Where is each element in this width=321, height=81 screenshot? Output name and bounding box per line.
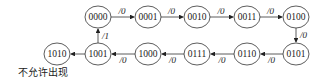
transition-label: /0 — [299, 30, 308, 40]
svg-text:0100: 0100 — [287, 12, 306, 22]
transition-label: /0 — [167, 6, 176, 16]
state-0110: 0110 — [234, 43, 260, 65]
svg-text:0001: 0001 — [139, 12, 158, 22]
state-1010: 1010 — [44, 43, 70, 65]
state-0101: 0101 — [283, 43, 309, 65]
svg-text:1001: 1001 — [89, 49, 108, 59]
transition-label: /0 — [118, 6, 127, 16]
svg-text:1010: 1010 — [48, 49, 67, 59]
svg-text:0101: 0101 — [287, 49, 306, 59]
state-1001: 1001 — [85, 43, 111, 65]
transition-label: /0 — [119, 55, 128, 65]
transition-label: /1 — [101, 31, 109, 41]
svg-text:0010: 0010 — [188, 12, 207, 22]
transition-label: /0 — [266, 6, 275, 16]
svg-text:0111: 0111 — [188, 49, 207, 59]
state-0111: 0111 — [184, 43, 210, 65]
state-1000: 1000 — [135, 43, 161, 65]
state-0011: 0011 — [234, 6, 260, 28]
svg-text:0000: 0000 — [89, 12, 108, 22]
transition-label: /0 — [217, 6, 226, 16]
transition-label: /0 — [168, 55, 177, 65]
state-0100: 0100 — [283, 6, 309, 28]
svg-text:0011: 0011 — [238, 12, 257, 22]
state-0001: 0001 — [135, 6, 161, 28]
state-0000: 0000 — [85, 6, 111, 28]
svg-text:0110: 0110 — [238, 49, 257, 59]
not-allowed-note: 不允许出现 — [18, 64, 68, 79]
transition-label: /0 — [218, 55, 227, 65]
svg-text:1000: 1000 — [139, 49, 158, 59]
state-0010: 0010 — [184, 6, 210, 28]
transition-label: /0 — [267, 55, 276, 65]
